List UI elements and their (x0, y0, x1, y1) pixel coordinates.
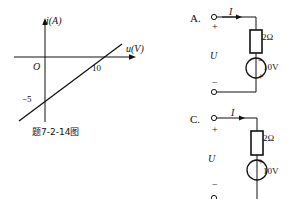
resistor-value-a: 2Ω (262, 33, 273, 42)
y-tick-label-neg5: −5 (22, 95, 32, 104)
resistor-a (250, 30, 262, 53)
figure-caption: 题7-2-14图 (32, 128, 79, 137)
figure-page: i(A) u(V) O 10 −5 题7-2-14图 A. (0, 0, 299, 199)
origin-label: O (33, 62, 40, 72)
source-value-a: 10V (263, 63, 279, 72)
terminal-bottom-sign-c: − (212, 180, 218, 190)
terminal-top-sign-a: + (212, 22, 218, 32)
terminal-bottom-c (211, 195, 216, 199)
resistor-c (251, 131, 263, 155)
current-label-c: I (231, 108, 234, 118)
voltage-label-c: U (208, 154, 215, 164)
voltage-label-a: U (210, 51, 217, 61)
terminal-bottom-a (211, 89, 216, 94)
current-label-a: I (229, 7, 232, 17)
current-arrowhead-c (239, 116, 245, 121)
y-axis-label: i(A) (46, 16, 62, 26)
circuit-c-diagram (150, 100, 299, 199)
terminal-bottom-sign-a: − (212, 78, 218, 88)
resistor-value-c: 2Ω (263, 134, 274, 143)
characteristic-line (19, 44, 122, 121)
x-axis-arrowhead (129, 54, 136, 59)
iu-characteristic-graph: i(A) u(V) O 10 −5 题7-2-14图 (0, 0, 150, 199)
terminal-top-c (211, 115, 216, 120)
source-bottom-sign-a: + (258, 72, 264, 82)
x-axis-label: u(V) (126, 44, 144, 54)
terminal-top-a (211, 14, 216, 19)
x-tick-label-10: 10 (92, 64, 101, 73)
source-value-c: 10V (263, 167, 279, 176)
terminal-top-sign-c: + (212, 125, 218, 135)
current-arrowhead-a (236, 15, 242, 20)
circuit-a-diagram (150, 0, 299, 100)
circuit-options-panel: A. I + U − (150, 0, 299, 199)
